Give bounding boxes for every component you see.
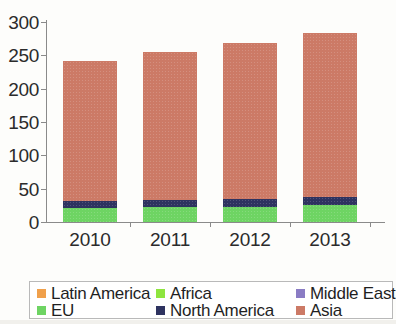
x-axis-tick-mark [130,222,131,227]
bar-2013 [303,22,357,222]
x-axis-tick-mark [290,222,291,227]
plot-area [47,22,385,222]
legend-swatch-icon [156,289,165,298]
x-axis-tick-label: 2012 [213,230,287,249]
chart-legend: Latin AmericaAfricaMiddle EastEUNorth Am… [29,281,393,319]
legend-row: EUNorth AmericaAsia [30,301,392,319]
bar-2012 [223,22,277,222]
legend-swatch-icon [37,289,46,298]
stacked-bar-chart-figure: 050100150200250300 2010201120122013 Lati… [0,0,396,324]
y-axis-tick-labels: 050100150200250300 [0,0,39,324]
x-axis-tick-mark [210,222,211,227]
bar-segment-asia [223,43,277,199]
x-axis-line [46,222,385,223]
bar-segment-eu [143,207,197,222]
legend-swatch-icon [37,306,46,315]
bar-segment-eu [223,207,277,222]
legend-item-africa[interactable]: Africa [156,284,212,302]
x-axis-tick-label: 2013 [293,230,367,249]
legend-label: Asia [310,302,342,319]
bar-segment-eu [63,208,117,222]
legend-item-latin-america[interactable]: Latin America [37,284,150,302]
y-axis-tick-label: 100 [0,146,39,165]
y-axis-tick-label: 150 [0,113,39,132]
y-axis-tick-label: 0 [0,213,39,232]
bar-segment-asia [63,61,117,202]
y-axis-tick-label: 200 [0,80,39,99]
x-axis-tick-label: 2010 [53,230,127,249]
bar-segment-north-america [303,197,357,204]
x-axis-tick-mark [370,222,371,227]
bar-2010 [63,22,117,222]
bar-segment-asia [143,52,197,200]
legend-label: EU [51,302,74,319]
legend-item-middle-east[interactable]: Middle East [296,284,396,302]
legend-label: North America [170,302,274,319]
legend-row: Latin AmericaAfricaMiddle East [30,284,392,302]
legend-label: Middle East [310,285,396,302]
bar-segment-north-america [63,201,117,208]
legend-label: Africa [170,285,212,302]
y-axis-tick-label: 50 [0,180,39,199]
bar-segment-north-america [143,200,197,207]
page-scan-edge [0,320,396,324]
legend-item-north-america[interactable]: North America [156,301,274,319]
legend-item-asia[interactable]: Asia [296,301,342,319]
x-axis-tick-label: 2011 [133,230,207,249]
y-axis-tick-label: 250 [0,46,39,65]
bar-segment-asia [303,33,357,197]
legend-swatch-icon [296,289,305,298]
legend-label: Latin America [51,285,150,302]
legend-swatch-icon [156,306,165,315]
bar-segment-north-america [223,199,277,206]
legend-swatch-icon [296,306,305,315]
bar-segment-eu [303,205,357,222]
bar-2011 [143,22,197,222]
y-axis-tick-label: 300 [0,13,39,32]
legend-item-eu[interactable]: EU [37,301,74,319]
